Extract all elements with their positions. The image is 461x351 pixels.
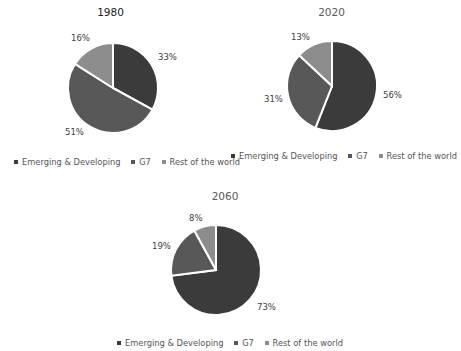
legend-swatch — [234, 341, 238, 345]
legend-item-emerging: Emerging & Developing — [231, 151, 338, 161]
pie-2060 — [100, 175, 350, 351]
legend: Emerging & Developing G7 Rest of the wor… — [231, 151, 461, 161]
slice-label-g7: 19% — [152, 241, 171, 251]
legend-swatch — [14, 160, 18, 164]
legend-swatch — [131, 160, 135, 164]
chart-2060: 2060 73% 19% 8% Emerging & Developing G7… — [100, 175, 350, 351]
legend: Emerging & Developing G7 Rest of the wor… — [14, 157, 248, 167]
slice-label-g7: 31% — [264, 94, 283, 104]
legend-swatch — [117, 341, 121, 345]
slice-label-rest: 16% — [71, 33, 90, 43]
chart-2020: 2020 56% 31% 13% Emerging & Developing G… — [221, 0, 442, 175]
legend-swatch — [348, 154, 352, 158]
legend-swatch — [162, 160, 166, 164]
legend-swatch — [379, 154, 383, 158]
slice-label-emerging: 56% — [383, 90, 402, 100]
slice-label-g7: 51% — [65, 127, 84, 137]
pie-1980 — [0, 0, 221, 175]
legend-item-emerging: Emerging & Developing — [14, 157, 121, 167]
legend-swatch — [231, 154, 235, 158]
legend-swatch — [265, 341, 269, 345]
legend-item-rest: Rest of the world — [379, 151, 457, 161]
slice-label-rest: 13% — [291, 32, 310, 42]
legend-item-emerging: Emerging & Developing — [117, 338, 224, 348]
legend-item-rest: Rest of the world — [265, 338, 343, 348]
legend-item-g7: G7 — [131, 157, 151, 167]
pie-2020 — [221, 0, 442, 175]
legend: Emerging & Developing G7 Rest of the wor… — [117, 338, 351, 348]
slice-label-rest: 8% — [189, 213, 203, 223]
legend-item-g7: G7 — [348, 151, 368, 161]
slice-label-emerging: 33% — [158, 52, 177, 62]
chart-1980: 1980 33% 51% 16% Emerging & Developing G… — [0, 0, 221, 175]
legend-item-g7: G7 — [234, 338, 254, 348]
slice-label-emerging: 73% — [257, 302, 276, 312]
